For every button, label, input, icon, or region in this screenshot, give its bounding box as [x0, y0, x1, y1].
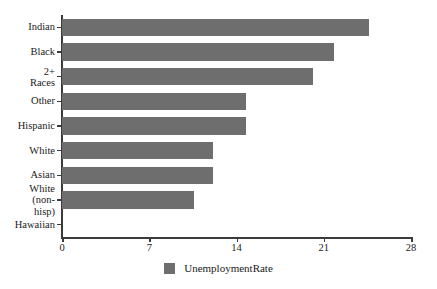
x-axis-tick: [149, 237, 151, 242]
x-axis-tick-label: 14: [231, 242, 242, 254]
y-axis-label: Black: [31, 46, 56, 58]
y-axis-tick: [57, 224, 62, 226]
bar-row: Hispanic: [62, 114, 411, 139]
legend-label-unemploymentrate: UnemploymentRate: [184, 262, 273, 274]
y-axis-label: Asian: [31, 170, 56, 182]
x-axis-tick-label: 7: [147, 242, 152, 254]
x-axis-tick: [62, 237, 64, 242]
bar-hispanic: [62, 117, 246, 134]
bar-row: 2+ Races: [62, 64, 411, 89]
bar-row: White: [62, 138, 411, 163]
y-axis-tick: [57, 175, 62, 177]
bar-row: Asian: [62, 163, 411, 188]
bar-other: [62, 93, 246, 110]
x-axis-tick: [411, 237, 413, 242]
x-axis-tick-label: 0: [59, 242, 64, 254]
bar-2-races: [62, 68, 313, 85]
x-axis-tick: [237, 237, 239, 242]
y-axis-label: Hispanic: [18, 120, 55, 132]
legend-swatch-unemploymentrate: [164, 263, 175, 274]
bar-chart: IndianBlack2+ RacesOtherHispanicWhiteAsi…: [0, 0, 437, 289]
y-axis-tick: [57, 27, 62, 29]
x-axis-tick: [324, 237, 326, 242]
y-axis-label: Indian: [28, 22, 55, 34]
y-axis-tick: [57, 199, 62, 201]
bar-white: [62, 142, 213, 159]
chart-legend: UnemploymentRate: [0, 262, 437, 274]
bar-white-non-hisp: [62, 191, 194, 208]
y-axis-label: Other: [31, 96, 55, 108]
plot-area: IndianBlack2+ RacesOtherHispanicWhiteAsi…: [62, 15, 411, 237]
y-axis-label: Hawaiian: [15, 219, 55, 231]
bar-row: Other: [62, 89, 411, 114]
bar-row: Indian: [62, 15, 411, 40]
bar-row: White (non-hisp): [62, 188, 411, 213]
y-axis-tick: [57, 125, 62, 127]
bar-indian: [62, 19, 369, 36]
y-axis-label: White (non-hisp): [29, 183, 55, 218]
bar-black: [62, 43, 334, 60]
bar-row: Hawaiian: [62, 212, 411, 237]
bar-rows: IndianBlack2+ RacesOtherHispanicWhiteAsi…: [62, 15, 411, 237]
bar-asian: [62, 167, 213, 184]
y-axis-label: 2+ Races: [30, 65, 55, 88]
y-axis-tick: [57, 101, 62, 103]
y-axis-tick: [57, 76, 62, 78]
x-axis-tick-label: 21: [319, 242, 330, 254]
y-axis-tick: [57, 150, 62, 152]
y-axis-label: White: [29, 145, 55, 157]
x-axis-tick-label: 28: [406, 242, 417, 254]
bar-row: Black: [62, 40, 411, 65]
y-axis-tick: [57, 51, 62, 53]
